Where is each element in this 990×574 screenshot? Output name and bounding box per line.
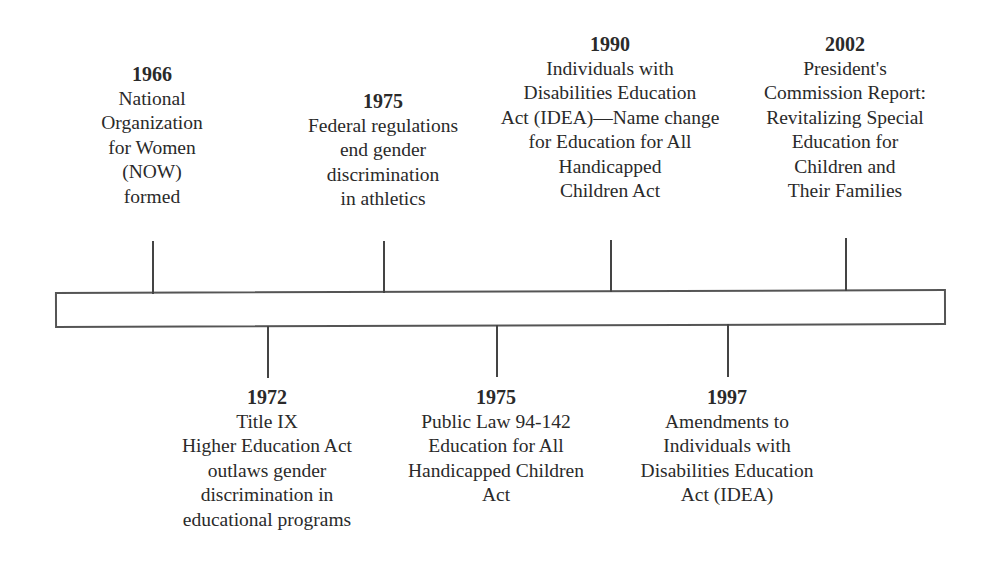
event-1975-athletics: 1975 Federal regulations end gender disc… — [308, 89, 458, 212]
event-text: for Women — [101, 136, 202, 161]
event-text: Disabilities Education — [501, 81, 720, 106]
event-text: (NOW) — [101, 160, 202, 185]
event-year: 2002 — [764, 32, 926, 57]
event-year: 1997 — [641, 385, 814, 410]
event-text: for Education for All — [501, 130, 720, 155]
event-text: in athletics — [308, 187, 458, 212]
event-1997: 1997 Amendments to Individuals with Disa… — [641, 385, 814, 508]
event-text: Handicapped Children — [408, 459, 584, 484]
event-text: Title IX — [182, 410, 352, 435]
event-text: formed — [101, 185, 202, 210]
event-text: Act — [408, 483, 584, 508]
event-text: Education for — [764, 130, 926, 155]
event-text: discrimination — [308, 163, 458, 188]
event-year: 1975 — [408, 385, 584, 410]
event-text: discrimination in — [182, 483, 352, 508]
tick-1975-above — [383, 241, 385, 293]
tick-1990 — [610, 240, 612, 292]
event-text: President's — [764, 57, 926, 82]
event-text: Revitalizing Special — [764, 106, 926, 131]
event-text: Children and — [764, 155, 926, 180]
tick-1997 — [727, 324, 729, 377]
event-text: Disabilities Education — [641, 459, 814, 484]
event-text: Their Families — [764, 179, 926, 204]
event-1990: 1990 Individuals with Disabilities Educa… — [501, 32, 720, 204]
event-text: outlaws gender — [182, 459, 352, 484]
tick-2002 — [845, 238, 847, 291]
event-1966: 1966 National Organization for Women (NO… — [101, 62, 202, 209]
event-text: Amendments to — [641, 410, 814, 435]
event-text: Act (IDEA)—Name change — [501, 106, 720, 131]
event-text: National — [101, 87, 202, 112]
event-text: Organization — [101, 111, 202, 136]
event-text: educational programs — [182, 508, 352, 533]
event-text: Individuals with — [501, 57, 720, 82]
event-1975-pl94-142: 1975 Public Law 94-142 Education for All… — [408, 385, 584, 508]
timeline-diagram: 1966 National Organization for Women (NO… — [0, 0, 990, 574]
event-text: Higher Education Act — [182, 434, 352, 459]
event-text: Individuals with — [641, 434, 814, 459]
event-1972: 1972 Title IX Higher Education Act outla… — [182, 385, 352, 532]
event-year: 1975 — [308, 89, 458, 114]
event-text: end gender — [308, 138, 458, 163]
event-text: Federal regulations — [308, 114, 458, 139]
event-year: 1972 — [182, 385, 352, 410]
tick-1975-below — [496, 325, 498, 377]
event-year: 1966 — [101, 62, 202, 87]
event-text: Act (IDEA) — [641, 483, 814, 508]
event-text: Commission Report: — [764, 81, 926, 106]
timeline-bar — [55, 289, 946, 328]
event-2002: 2002 President's Commission Report: Revi… — [764, 32, 926, 204]
tick-1972 — [267, 326, 269, 378]
event-text: Public Law 94-142 — [408, 410, 584, 435]
event-text: Children Act — [501, 179, 720, 204]
event-text: Education for All — [408, 434, 584, 459]
tick-1966 — [152, 241, 154, 294]
event-text: Handicapped — [501, 155, 720, 180]
event-year: 1990 — [501, 32, 720, 57]
